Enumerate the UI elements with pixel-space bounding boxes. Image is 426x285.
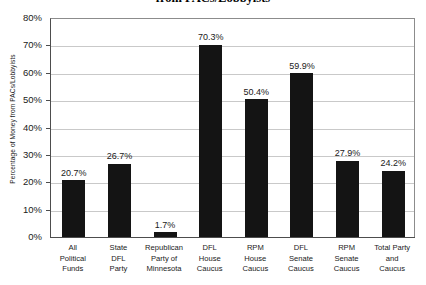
gridline (51, 183, 414, 184)
bar (245, 99, 268, 237)
chart-title: from PACs/Lobbyists (0, 0, 426, 5)
bar-group: 24.2% (382, 18, 405, 237)
x-category-label-line: and (365, 254, 419, 265)
gridline (51, 211, 414, 212)
gridline (51, 101, 414, 102)
plot-area: 20.7%26.7%1.7%70.3%50.4%59.9%27.9%24.2% (50, 18, 415, 237)
bar-chart: from PACs/Lobbyists Percentage of Money … (0, 0, 426, 285)
bar-value-label: 1.7% (155, 220, 176, 230)
bar-value-label: 24.2% (380, 158, 406, 168)
bar-value-label: 70.3% (198, 32, 224, 42)
bar-group: 50.4% (245, 18, 268, 237)
gridline (51, 129, 414, 130)
bar-group: 70.3% (199, 18, 222, 237)
x-category-label-line: Caucus (365, 264, 419, 275)
bar (62, 180, 85, 237)
bar-value-label: 20.7% (61, 168, 87, 178)
y-tick-label: 60% (0, 67, 42, 78)
x-category-label: Total PartyandCaucus (365, 243, 419, 275)
y-tick-label: 10% (0, 204, 42, 215)
y-tick-label: 80% (0, 12, 42, 23)
x-category-label-line: Total Party (365, 243, 419, 254)
bar-group: 59.9% (290, 18, 313, 237)
bar (382, 171, 405, 237)
bar-group: 27.9% (336, 18, 359, 237)
y-tick-label: 20% (0, 176, 42, 187)
y-tick-label: 0% (0, 231, 42, 242)
gridline (51, 74, 414, 75)
bar (108, 164, 131, 237)
bar-value-label: 59.9% (289, 61, 315, 71)
bar-value-label: 50.4% (244, 87, 270, 97)
bar (199, 45, 222, 237)
y-tick-label: 30% (0, 149, 42, 160)
bar-group: 26.7% (108, 18, 131, 237)
x-axis-line (50, 237, 415, 238)
bar (290, 73, 313, 237)
gridline (51, 46, 414, 47)
bar-group: 20.7% (62, 18, 85, 237)
y-tick-label: 70% (0, 39, 42, 50)
bar-value-label: 26.7% (107, 151, 133, 161)
y-tick-label: 50% (0, 94, 42, 105)
y-tick-label: 40% (0, 122, 42, 133)
bar-value-label: 27.9% (335, 148, 361, 158)
bar-group: 1.7% (154, 18, 177, 237)
bar (336, 161, 359, 237)
